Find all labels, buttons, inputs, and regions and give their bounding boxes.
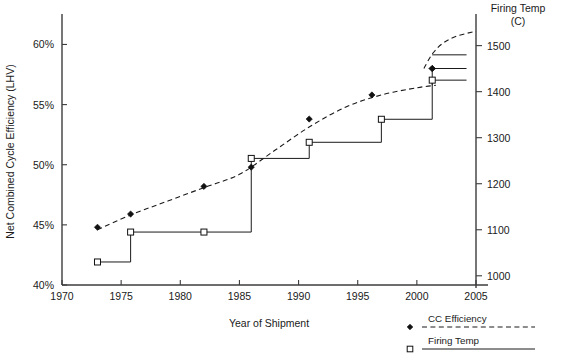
- chart-container: 19701975198019851990199520002005 40%45%5…: [0, 0, 566, 364]
- y-tick-label: 40%: [33, 279, 54, 291]
- y2-axis-title-line1: Firing Temp: [491, 2, 546, 14]
- data-series-group: [97, 31, 476, 262]
- x-tick-label: 1970: [50, 290, 74, 302]
- legend-marker-firing-temp: [407, 346, 413, 352]
- x-tick-label: 1990: [287, 290, 311, 302]
- combined-cycle-efficiency-chart: 19701975198019851990199520002005 40%45%5…: [0, 0, 566, 364]
- x-tick-label: 1975: [109, 290, 133, 302]
- x-tick-label: 2005: [464, 290, 488, 302]
- x-axis-title: Year of Shipment: [229, 317, 309, 329]
- data-point-firing-temp: [306, 139, 312, 145]
- x-axis-ticks: 19701975198019851990199520002005: [50, 280, 488, 302]
- y-axis-title: Net Combined Cycle Efficiency (LHV): [4, 64, 16, 238]
- data-point-cc-efficiency: [94, 224, 100, 230]
- data-point-firing-temp: [201, 229, 207, 235]
- y2-tick-label: 1200: [487, 178, 511, 190]
- y2-tick-label: 1000: [487, 270, 511, 282]
- data-point-cc-efficiency: [306, 116, 312, 122]
- y2-tick-label: 1300: [487, 132, 511, 144]
- y2-axis-title-line2: (C): [511, 15, 526, 27]
- chart-legend: CC EfficiencyFiring Temp: [407, 313, 535, 352]
- x-tick-label: 1980: [169, 290, 193, 302]
- y-tick-label: 50%: [33, 159, 54, 171]
- series-projection-line: [424, 31, 476, 68]
- data-point-firing-temp: [94, 259, 100, 265]
- data-point-firing-temp: [248, 155, 254, 161]
- data-point-firing-temp: [378, 116, 384, 122]
- y2-tick-label: 1100: [487, 224, 510, 236]
- y-tick-label: 60%: [33, 38, 54, 50]
- x-tick-label: 1985: [228, 290, 252, 302]
- y2-tick-label: 1500: [487, 40, 511, 52]
- legend-label-1: CC Efficiency: [428, 313, 487, 324]
- data-point-cc-efficiency-latest: [429, 65, 435, 71]
- data-point-cc-efficiency: [369, 92, 375, 98]
- y2-axis-ticks: 100011001200130014001500: [476, 40, 511, 282]
- legend-marker-cc-efficiency: [407, 324, 413, 330]
- series-trend-line: [97, 85, 435, 229]
- y-tick-label: 45%: [33, 219, 54, 231]
- data-point-firing-temp: [128, 229, 134, 235]
- data-point-firing-temp: [429, 77, 435, 83]
- data-point-cc-efficiency: [248, 164, 254, 170]
- data-markers-group: [94, 65, 435, 265]
- y-tick-label: 55%: [33, 99, 54, 111]
- x-tick-label: 1995: [346, 290, 370, 302]
- data-point-cc-efficiency: [128, 211, 134, 217]
- x-tick-label: 2000: [405, 290, 429, 302]
- plot-frame: [62, 14, 488, 288]
- legend-label-2: Firing Temp: [428, 335, 480, 346]
- series-step-line: [97, 80, 466, 262]
- y2-tick-label: 1400: [487, 86, 511, 98]
